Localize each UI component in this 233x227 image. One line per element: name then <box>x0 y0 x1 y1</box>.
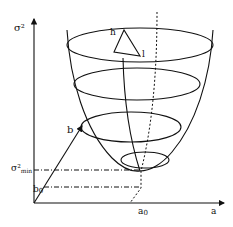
dotted-projection-line <box>130 12 157 203</box>
x-axis-label: a <box>211 206 217 216</box>
paraboloid-right-side <box>140 30 213 171</box>
a0-label: a0 <box>138 206 148 217</box>
top-rim-ellipse <box>67 28 213 62</box>
triangle-hl <box>114 30 140 56</box>
dashdot-projections <box>34 170 141 187</box>
sigma-min-label: σ²min <box>11 163 32 174</box>
b0-label: b0 <box>33 184 43 195</box>
triangle-h-label: h <box>110 27 116 37</box>
b-axis-label: b <box>67 124 73 135</box>
y-axis-label: σ² <box>14 22 25 33</box>
paraboloid-diagram: σ² a a0 b b0 σ²min h l <box>0 0 233 227</box>
upper-ring-ellipse <box>74 68 200 100</box>
paraboloid-left-side <box>67 30 140 171</box>
triangle-l-label: l <box>142 49 145 59</box>
meridian-line <box>123 58 140 171</box>
bottom-ring-ellipse <box>121 152 169 168</box>
paraboloid-surface <box>67 28 213 171</box>
